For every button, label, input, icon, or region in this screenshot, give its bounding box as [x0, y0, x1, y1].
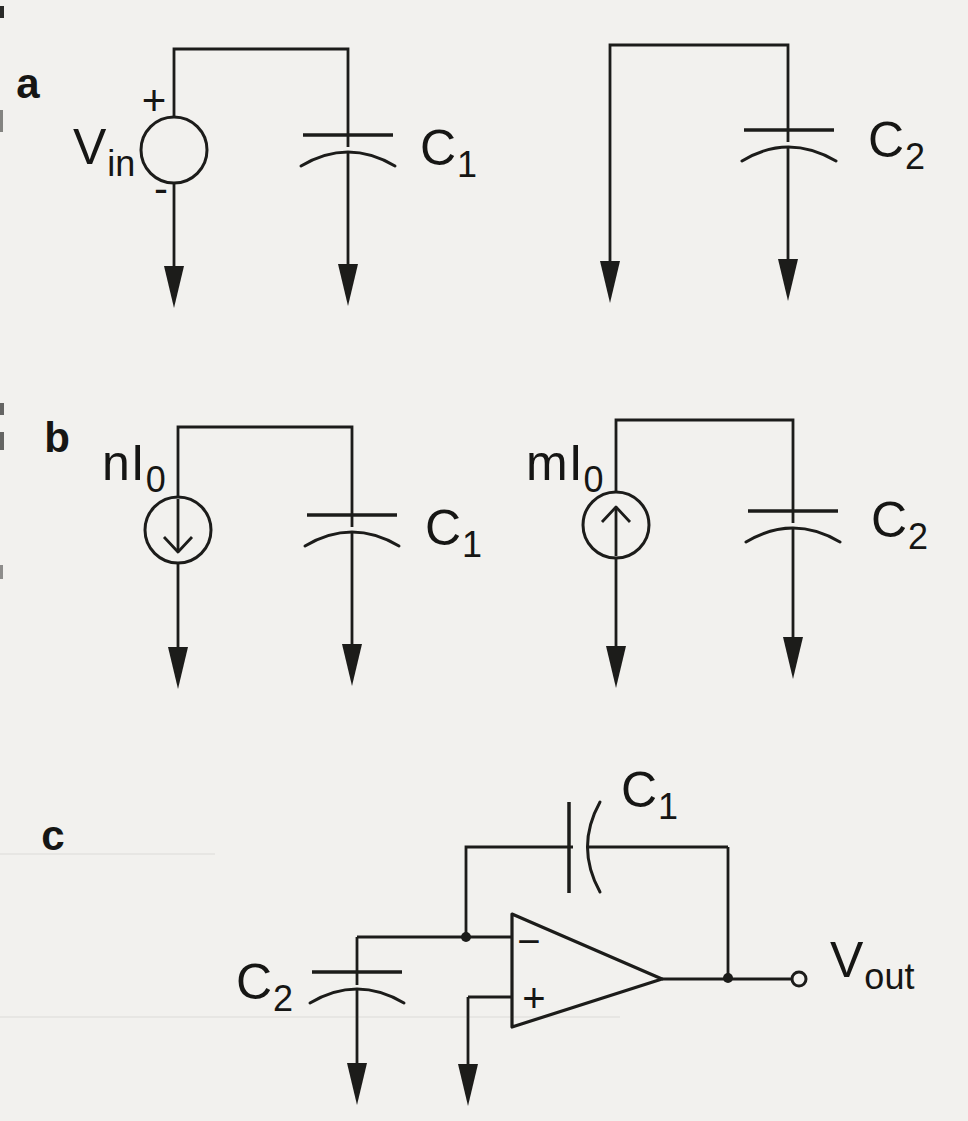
- current-arrow-down-icon: [164, 499, 192, 552]
- input-capacitor-c2-symbol: [310, 937, 404, 1105]
- voltage-source-minus-sign: -: [154, 168, 168, 210]
- vout-label-sub: out: [864, 956, 914, 997]
- c1c-label-sub: 1: [658, 786, 678, 827]
- circuit-artwork: [0, 0, 968, 1121]
- vin-label: Vin: [73, 122, 135, 172]
- ground-arrow-icon: [778, 259, 798, 301]
- capacitor-c1a-symbol: [301, 135, 395, 306]
- capacitor-c1a-label: C1: [420, 123, 477, 173]
- capacitor-c2a-label: C2: [868, 115, 925, 165]
- c1b-label-main: C: [425, 500, 462, 556]
- c1a-label-sub: 1: [457, 144, 477, 185]
- current-source-up-symbol: [583, 420, 793, 688]
- scan-edge-mark: [0, 110, 3, 132]
- scan-edge-mark: [0, 565, 3, 579]
- panel-a-letter: a: [16, 63, 39, 105]
- ground-arrow-icon: [168, 647, 188, 689]
- current-arrow-up-icon: [602, 507, 630, 556]
- ground-arrow-icon: [458, 1064, 478, 1106]
- c2c-label-main: C: [236, 954, 273, 1010]
- mi0-label-main: mI: [526, 435, 584, 491]
- current-source-ni0-label: nI0: [102, 438, 166, 488]
- ground-arrow-icon: [347, 1063, 367, 1105]
- capacitor-c1b-symbol: [305, 515, 399, 686]
- feedback-capacitor-c1-label: C1: [621, 765, 678, 815]
- c1b-label-sub: 1: [462, 524, 482, 565]
- panel-c-letter: c: [41, 815, 64, 857]
- current-source-down-symbol: [145, 427, 352, 689]
- scan-streak: [0, 853, 215, 855]
- ni0-label-sub: 0: [146, 459, 166, 500]
- panel-a-right-circuit: [600, 45, 836, 303]
- opamp-noninverting-sign: +: [522, 978, 545, 1018]
- scanned-figure-page: a b c Vin + - C1 C2 nI0 C1 mI0 C2 C1 C2 …: [0, 0, 968, 1121]
- current-source-mi0-label: mI0: [526, 438, 604, 488]
- ground-arrow-icon: [338, 264, 358, 306]
- ground-arrow-icon: [164, 266, 184, 308]
- ground-arrow-icon: [783, 637, 803, 679]
- c2b-label-main: C: [871, 492, 908, 548]
- capacitor-c2b-symbol: [746, 511, 840, 679]
- c1a-label-main: C: [420, 120, 457, 176]
- panel-a-left-circuit: [141, 49, 395, 308]
- ground-arrow-icon: [600, 261, 620, 303]
- c2a-label-main: C: [868, 112, 905, 168]
- output-terminal-icon: [792, 972, 806, 986]
- opamp-inverting-sign: −: [517, 921, 540, 961]
- capacitor-c1b-label: C1: [425, 503, 482, 553]
- panel-b-letter: b: [44, 417, 70, 459]
- capacitor-c2a-symbol: [742, 130, 836, 301]
- vout-label: Vout: [830, 935, 914, 985]
- panel-c-integrator-circuit: [310, 802, 806, 1106]
- panel-b-left-circuit: [145, 427, 399, 689]
- voltage-source-plus-sign: +: [142, 80, 167, 122]
- panel-b-right-circuit: [583, 420, 840, 688]
- c2c-label-sub: 2: [273, 978, 293, 1019]
- scan-edge-mark: [0, 6, 4, 18]
- capacitor-c2b-label: C2: [871, 495, 928, 545]
- voltage-source-symbol: [141, 49, 348, 308]
- c2b-label-sub: 2: [908, 516, 928, 557]
- ni0-label-main: nI: [102, 435, 146, 491]
- ground-arrow-icon: [342, 644, 362, 686]
- input-capacitor-c2-label: C2: [236, 957, 293, 1007]
- mi0-label-sub: 0: [584, 459, 604, 500]
- ground-arrow-icon: [606, 646, 626, 688]
- junction-dot: [723, 973, 733, 983]
- scan-edge-mark: [0, 403, 4, 415]
- vin-label-main: V: [73, 119, 107, 175]
- vout-label-main: V: [830, 932, 864, 988]
- vin-label-sub: in: [107, 143, 135, 184]
- scan-edge-mark: [0, 432, 4, 450]
- c1c-label-main: C: [621, 762, 658, 818]
- c2a-label-sub: 2: [905, 136, 925, 177]
